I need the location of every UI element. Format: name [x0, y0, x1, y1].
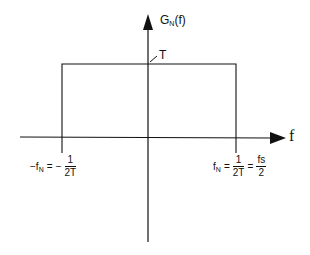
y-label-sub: N	[169, 20, 174, 27]
amplitude-leader	[150, 56, 157, 62]
y-label-suffix: (f)	[174, 13, 185, 27]
rect-response	[62, 64, 236, 153]
left-eq: =	[47, 162, 53, 172]
right-eq2: =	[248, 162, 254, 172]
amplitude-label: T	[159, 49, 166, 61]
filter-response-diagram	[0, 0, 310, 255]
left-neg: −	[56, 162, 62, 172]
y-label-main: G	[160, 13, 169, 27]
x-axis-label: f	[289, 128, 294, 144]
left-cutoff-label: −fN = − 12T	[30, 155, 76, 178]
right-fraction-1: 12T	[233, 155, 245, 178]
y-axis-arrowhead	[143, 14, 153, 30]
right-fraction-2: fs2	[256, 155, 266, 178]
y-axis-label: GN(f)	[160, 14, 186, 26]
left-lhs: −fN	[30, 162, 44, 172]
right-cutoff-label: fN = 12T = fs2	[213, 155, 266, 178]
right-eq1: =	[224, 162, 230, 172]
x-axis	[20, 137, 272, 138]
right-lhs: fN	[213, 162, 221, 172]
x-axis-arrowhead	[270, 132, 286, 144]
left-fraction: 12T	[65, 155, 77, 178]
